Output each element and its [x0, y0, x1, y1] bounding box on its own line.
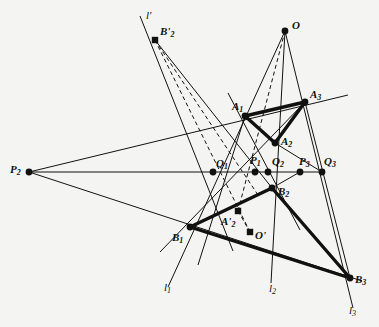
point-marker-A3	[302, 99, 309, 106]
point-label-B2prime: B'2	[160, 26, 174, 37]
point-marker-Q2	[265, 169, 272, 176]
point-marker-O	[282, 28, 289, 35]
point-marker-Q1	[210, 169, 217, 176]
point-marker-B2	[269, 185, 276, 192]
triangle-A-side-A1A2	[245, 116, 275, 143]
geometry-figure: OB'2A3A1A2Q1P1Q2P3Q3P2B2A'2B1O'B3l'l1l2l…	[0, 0, 379, 327]
point-marker-B2prime	[152, 37, 158, 43]
dashed-O-to-A2prime	[238, 31, 285, 211]
line-label-l1: l1	[164, 282, 171, 293]
point-label-A2prime: A'2	[221, 216, 235, 227]
dashed-B2prime-to-Oprime	[155, 40, 250, 232]
point-label-Q2: Q2	[272, 156, 284, 167]
point-marker-P2	[26, 169, 33, 176]
line-A2-Q1-ext	[160, 102, 305, 252]
point-label-P1: P1	[250, 155, 261, 166]
line-label-l3: l3	[349, 305, 356, 316]
point-marker-P1	[252, 169, 259, 176]
point-label-Q3: Q3	[324, 156, 336, 167]
point-label-B2: B2	[278, 186, 289, 197]
point-marker-A2	[272, 140, 279, 147]
point-label-A2: A2	[281, 136, 292, 147]
point-marker-B1	[187, 224, 194, 231]
point-marker-Q3	[319, 169, 326, 176]
line-label-l-prime: l'	[146, 10, 151, 21]
point-label-B3: B3	[355, 274, 366, 285]
point-label-Oprime: O'	[255, 230, 266, 241]
point-label-P3: P3	[299, 156, 310, 167]
dashed-line-group	[155, 31, 285, 232]
point-label-P2: P2	[10, 164, 21, 175]
point-marker-B3	[347, 275, 354, 282]
point-marker-P3	[297, 169, 304, 176]
point-label-B1: B1	[172, 232, 183, 243]
point-label-Q1: Q1	[216, 158, 228, 169]
point-marker-A2prime	[235, 208, 241, 214]
point-label-O: O	[292, 20, 300, 31]
point-marker-Oprime	[247, 229, 253, 235]
line-label-l2: l2	[269, 283, 276, 294]
point-label-A3: A3	[310, 89, 321, 100]
point-label-A1: A1	[232, 101, 243, 112]
figure-canvas	[0, 0, 379, 327]
